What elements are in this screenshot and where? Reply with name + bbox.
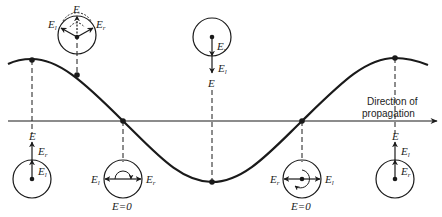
polarization-circle-p4: Er El E: [193, 18, 231, 89]
svg-text:E=0: E=0: [290, 200, 311, 212]
dashed-guides: [32, 35, 395, 182]
svg-text:Er: Er: [269, 173, 280, 187]
polarization-circle-p2: E El Er: [47, 3, 106, 54]
svg-text:El: El: [47, 18, 57, 32]
svg-text:El: El: [217, 62, 227, 76]
polarization-circle-p5: Er El E=0: [269, 160, 334, 212]
svg-text:E: E: [207, 77, 215, 89]
wave-curve: [8, 58, 428, 182]
axis-label-line2: propagation: [362, 108, 415, 119]
polarization-circle-p6: E El Er: [376, 130, 414, 198]
polarization-diagram: Direction of propagation E Er El: [0, 0, 442, 217]
svg-text:E: E: [391, 130, 399, 142]
svg-text:Er: Er: [216, 40, 227, 54]
svg-text:E=0: E=0: [111, 200, 132, 212]
axis-label-line1: Direction of: [367, 96, 418, 107]
svg-text:El: El: [400, 145, 410, 159]
svg-text:Er: Er: [145, 173, 156, 187]
polarization-circle-p1: E Er El: [13, 130, 51, 198]
svg-text:El: El: [37, 165, 47, 179]
curve-points: [29, 55, 398, 185]
polarization-circle-p3: El Er E=0: [90, 160, 156, 212]
svg-text:E: E: [28, 130, 36, 142]
svg-text:Er: Er: [37, 145, 48, 159]
svg-text:E: E: [72, 3, 80, 15]
svg-text:El: El: [90, 173, 100, 187]
svg-text:El: El: [324, 173, 334, 187]
svg-text:Er: Er: [95, 18, 106, 32]
